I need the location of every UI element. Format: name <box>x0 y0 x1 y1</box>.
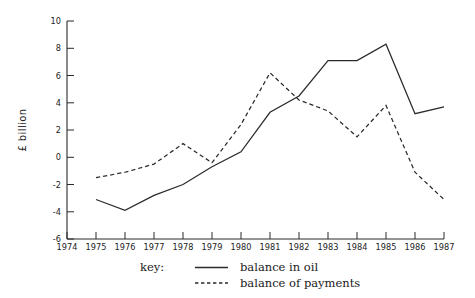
series-line-balance-of-payments <box>96 73 444 200</box>
legend-label-balance-in-oil: balance in oil <box>240 260 318 274</box>
y-axis-title: £ billion <box>17 108 28 151</box>
x-tick-label-1985: 1985 <box>375 242 396 252</box>
legend-key-label: key: <box>140 260 164 274</box>
y-tick-label-2: 2 <box>56 125 61 135</box>
x-tick-label-1981: 1981 <box>259 242 280 252</box>
series-line-balance-in-oil <box>96 44 444 210</box>
legend-label-balance-of-payments: balance of payments <box>240 276 360 290</box>
x-axis-ticks <box>67 232 444 239</box>
x-tick-label-1979: 1979 <box>201 242 222 252</box>
y-axis-tick-labels: 10 8 6 4 2 0 -2 -4 -6 <box>50 16 61 244</box>
y-tick-label-6: 6 <box>56 71 61 81</box>
x-tick-label-1980: 1980 <box>230 242 251 252</box>
y-axis-ticks <box>67 21 74 239</box>
x-tick-label-1984: 1984 <box>346 242 367 252</box>
y-tick-label-neg4: -4 <box>53 207 61 217</box>
y-tick-label-4: 4 <box>56 98 61 108</box>
line-chart: £ billion 10 8 6 4 2 0 -2 -4 -6 <box>0 0 475 298</box>
x-tick-label-1974: 1974 <box>56 242 77 252</box>
x-tick-label-1987: 1987 <box>433 242 454 252</box>
y-tick-label-8: 8 <box>56 43 61 53</box>
chart-page: £ billion 10 8 6 4 2 0 -2 -4 -6 <box>0 0 475 298</box>
x-axis-tick-labels: 1974 1975 1976 1977 1978 1979 1980 1981 … <box>56 242 454 252</box>
x-tick-label-1976: 1976 <box>114 242 135 252</box>
y-tick-label-neg2: -2 <box>53 180 61 190</box>
y-tick-label-0: 0 <box>56 152 61 162</box>
chart-legend: key: balance in oil balance of payments <box>140 260 360 290</box>
x-tick-label-1983: 1983 <box>317 242 338 252</box>
x-tick-label-1975: 1975 <box>85 242 106 252</box>
x-tick-label-1986: 1986 <box>404 242 425 252</box>
x-tick-label-1978: 1978 <box>172 242 193 252</box>
y-tick-label-10: 10 <box>50 16 61 26</box>
x-tick-label-1977: 1977 <box>143 242 164 252</box>
x-tick-label-1982: 1982 <box>288 242 309 252</box>
